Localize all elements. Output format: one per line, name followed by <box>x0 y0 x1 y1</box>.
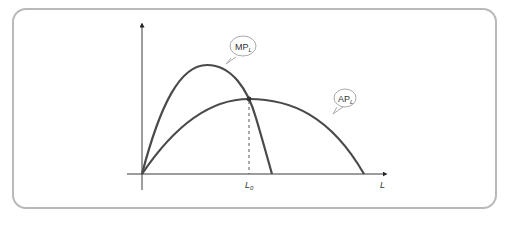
ap-callout: APL <box>333 89 356 114</box>
chart-svg: MPL APL L0 L <box>0 0 511 225</box>
mp-curve <box>142 65 272 174</box>
x-axis-label: L <box>380 180 385 190</box>
l0-label: L0 <box>245 180 254 191</box>
mp-callout: MPL <box>226 36 256 64</box>
intersection-point <box>247 97 252 102</box>
